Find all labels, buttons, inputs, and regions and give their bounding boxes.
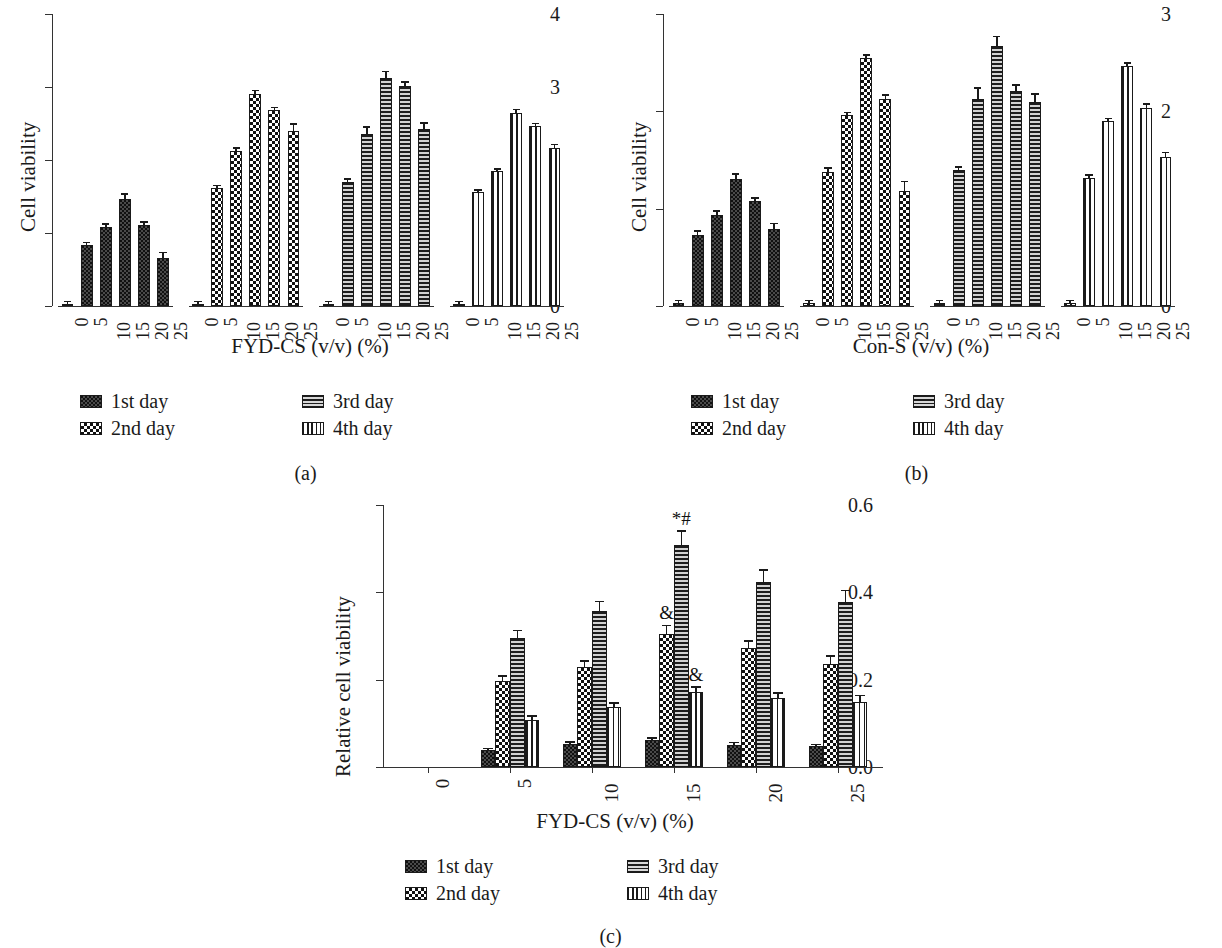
error-bar [808, 301, 810, 303]
bar [577, 667, 592, 767]
legend-item: 3rd day [627, 855, 719, 878]
y-axis-tick-label: 3 [550, 77, 560, 97]
error-bar [143, 223, 145, 225]
error-bar [496, 170, 498, 171]
x-axis-tick-label: 25 [848, 784, 867, 803]
error-bar-cap [290, 123, 297, 125]
legend-label: 4th day [658, 882, 717, 905]
y-axis-tick-label: 4 [550, 4, 560, 24]
error-bar-cap [826, 655, 835, 657]
x-axis-tick-label: 5 [833, 318, 851, 327]
bar [972, 99, 984, 306]
bar [418, 129, 430, 306]
error-bar [404, 83, 406, 86]
bar [268, 110, 280, 306]
legend-item: 4th day [913, 417, 1003, 440]
error-bar [678, 301, 680, 303]
error-bar-cap [901, 181, 908, 183]
bar [860, 58, 872, 306]
bar [809, 746, 824, 767]
y-axis-tick [45, 306, 52, 307]
bar [1083, 178, 1095, 306]
error-bar-cap [841, 590, 850, 592]
bar [472, 192, 484, 306]
error-bar-cap [974, 87, 981, 89]
bar [674, 545, 689, 767]
bar [81, 245, 93, 306]
error-bar-cap [855, 695, 864, 697]
y-axis-tick [656, 111, 663, 112]
x-axis-tick-label: 5 [222, 318, 240, 327]
x-axis-tick [510, 767, 511, 773]
error-bar-cap [483, 748, 492, 750]
x-axis-label-b: Con-S (v/v) (%) [761, 334, 1081, 359]
legend-swatch-d4-icon [302, 422, 324, 435]
error-bar-cap [344, 178, 351, 180]
bar [953, 170, 965, 306]
figure-root: 0123405101520250510152025051015202505101… [0, 0, 1222, 948]
legend-item: 1st day [405, 855, 493, 878]
bar [879, 99, 891, 306]
error-bar-cap [844, 112, 851, 114]
error-bar [584, 662, 586, 668]
bar [380, 78, 392, 306]
error-bar [845, 591, 847, 602]
error-bar-cap [498, 675, 507, 677]
error-bar [1034, 95, 1036, 102]
legend-swatch-d4-icon [913, 422, 935, 435]
error-bar [293, 125, 295, 131]
error-bar-cap [595, 601, 604, 603]
error-bar-cap [751, 197, 758, 199]
x-axis-tick-label: 0 [433, 779, 452, 789]
error-bar-cap [102, 223, 109, 225]
legend-item: 1st day [80, 390, 168, 413]
error-bar-cap [732, 173, 739, 175]
error-bar-cap [1105, 118, 1112, 120]
y-axis-label-b: Cell viability [627, 122, 652, 232]
bar [592, 611, 607, 767]
error-bar [487, 749, 489, 750]
y-axis-tick [45, 14, 52, 15]
bar [138, 225, 150, 306]
error-bar [1107, 119, 1109, 121]
error-bar [830, 657, 832, 664]
x-axis-line [319, 306, 434, 307]
x-axis-tick-label: 20 [544, 322, 562, 340]
bar [1140, 108, 1152, 306]
plot-area-b: 0123051015202505101520250510152025051015… [663, 14, 1181, 306]
error-bar [599, 602, 601, 611]
error-bar-cap [121, 193, 128, 195]
error-bar-cap [194, 301, 201, 303]
bar [119, 199, 131, 306]
error-bar-cap [420, 122, 427, 124]
error-bar [1069, 301, 1071, 303]
error-bar-cap [811, 744, 820, 746]
y-axis-tick [376, 592, 383, 593]
bar [756, 582, 771, 767]
bar [211, 188, 223, 306]
x-axis-tick-label: 5 [1094, 318, 1112, 327]
error-bar [535, 124, 537, 126]
significance-annotation: & [689, 664, 704, 686]
error-bar-cap [1143, 103, 1150, 105]
bar [1010, 91, 1022, 306]
error-bar [569, 743, 571, 744]
error-bar [904, 182, 906, 191]
error-bar [254, 91, 256, 93]
x-axis-tick [756, 767, 757, 773]
error-bar [197, 302, 199, 303]
error-bar [515, 110, 517, 112]
x-axis-tick-label: 5 [91, 318, 109, 327]
error-bar-cap [936, 300, 943, 302]
x-axis-tick-label: 25 [1174, 322, 1192, 340]
bar [342, 182, 354, 306]
x-axis-label-c: FYD-CS (v/v) (%) [455, 809, 775, 834]
error-bar-cap [213, 185, 220, 187]
error-bar [681, 532, 683, 545]
error-bar-cap [325, 301, 332, 303]
error-bar-cap [824, 167, 831, 169]
x-axis-line [1061, 306, 1176, 307]
error-bar-cap [513, 109, 520, 111]
x-axis-tick-label: 20 [1155, 322, 1173, 340]
error-bar [733, 743, 735, 744]
